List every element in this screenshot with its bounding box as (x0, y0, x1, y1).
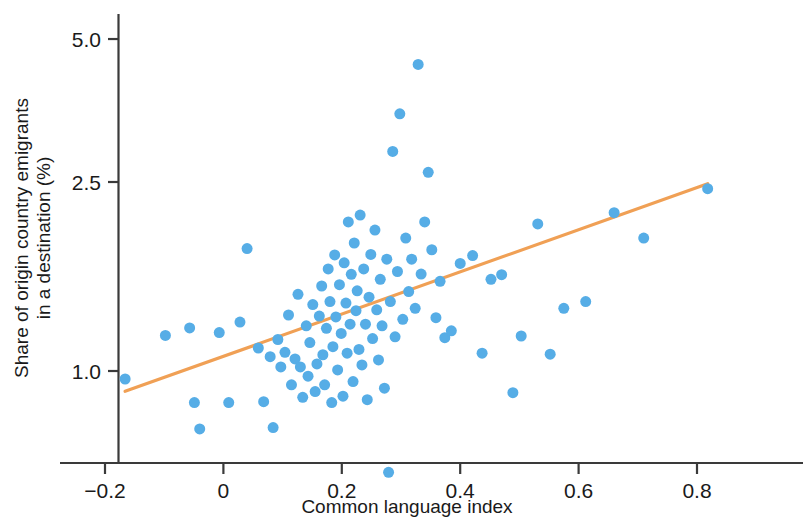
data-point (358, 263, 369, 274)
data-point (321, 323, 332, 334)
data-point (392, 266, 403, 277)
data-point (365, 249, 376, 260)
data-point (326, 397, 337, 408)
data-point (369, 225, 380, 236)
x-tick-label-4: 0.6 (564, 479, 593, 502)
data-point (223, 397, 234, 408)
data-point (332, 364, 343, 375)
data-point (234, 317, 245, 328)
data-point (346, 269, 357, 280)
data-point (310, 386, 321, 397)
data-point (214, 327, 225, 338)
data-point (301, 320, 312, 331)
y-tick-label-1: 2.5 (72, 171, 101, 194)
data-point (410, 303, 421, 314)
data-point (345, 319, 356, 330)
data-point (532, 218, 543, 229)
data-point (467, 250, 478, 261)
data-point (375, 274, 386, 285)
data-point (314, 311, 325, 322)
data-point (316, 280, 327, 291)
data-point (373, 354, 384, 365)
data-point (242, 243, 253, 254)
data-point (446, 325, 457, 336)
data-point (336, 328, 347, 339)
data-point (367, 333, 378, 344)
data-point (258, 396, 269, 407)
y-axis-title: Share of origin country emigrantsin a de… (11, 98, 54, 378)
data-point (455, 258, 466, 269)
data-point (362, 394, 373, 405)
data-point (275, 361, 286, 372)
data-point (334, 279, 345, 290)
data-point (348, 376, 359, 387)
data-point (545, 349, 556, 360)
axes-group (60, 14, 803, 474)
data-point (189, 397, 200, 408)
y-tick-label-2: 5.0 (72, 28, 101, 51)
data-point (423, 167, 434, 178)
data-point (292, 289, 303, 300)
data-point (496, 269, 507, 280)
data-point (364, 292, 375, 303)
y-axis-title-line-1: in a destination (%) (33, 157, 54, 320)
data-point (371, 304, 382, 315)
data-point (272, 334, 283, 345)
data-point (435, 276, 446, 287)
data-point (340, 298, 351, 309)
data-point (268, 422, 279, 433)
data-point (265, 351, 276, 362)
data-point (558, 303, 569, 314)
data-point (352, 285, 363, 296)
data-point (324, 296, 335, 307)
data-point (253, 342, 264, 353)
data-point (286, 379, 297, 390)
data-point (416, 269, 427, 280)
plot-canvas: 1.02.55.0−0.200.20.40.60.8Common languag… (0, 0, 803, 520)
x-tick-label-0: −0.2 (84, 479, 125, 502)
data-point (283, 309, 294, 320)
trend-line (125, 184, 708, 392)
data-point (339, 257, 350, 268)
data-point (323, 263, 334, 274)
data-point (426, 244, 437, 255)
data-point (319, 379, 330, 390)
data-point (303, 371, 314, 382)
data-point (343, 216, 354, 227)
data-point (329, 249, 340, 260)
data-point (327, 341, 338, 352)
x-tick-label-1: 0 (218, 479, 230, 502)
data-point (194, 423, 205, 434)
data-point (317, 349, 328, 360)
data-point (184, 322, 195, 333)
data-point (349, 237, 360, 248)
data-point (311, 358, 322, 369)
x-tick-label-5: 0.8 (682, 479, 711, 502)
data-point (307, 299, 318, 310)
data-points-group (120, 59, 714, 478)
data-point (337, 391, 348, 402)
x-axis-title: Common language index (301, 496, 513, 517)
data-point (390, 331, 401, 342)
data-point (609, 207, 620, 218)
data-point (387, 146, 398, 157)
data-point (397, 314, 408, 325)
data-point (295, 361, 306, 372)
data-point (379, 383, 390, 394)
data-point (381, 254, 392, 265)
data-point (638, 233, 649, 244)
data-point (394, 108, 405, 119)
data-point (356, 359, 367, 370)
data-point (353, 344, 364, 355)
data-point (383, 467, 394, 478)
y-tick-label-0: 1.0 (72, 360, 101, 383)
data-point (507, 387, 518, 398)
data-point (279, 347, 290, 358)
data-point (400, 233, 411, 244)
data-point (342, 348, 353, 359)
y-axis-title-line-0: Share of origin country emigrants (11, 98, 32, 378)
data-point (580, 296, 591, 307)
data-point (403, 286, 414, 297)
data-point (516, 330, 527, 341)
data-point (330, 311, 341, 322)
